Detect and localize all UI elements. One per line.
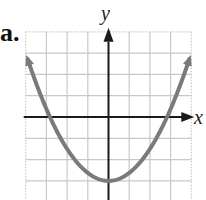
parabola-plot: x y — [0, 0, 206, 200]
y-axis-label: y — [99, 2, 110, 25]
x-axis-label: x — [193, 106, 203, 128]
